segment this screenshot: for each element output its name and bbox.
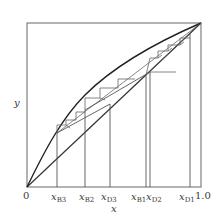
- diagram-canvas: [0, 0, 222, 221]
- operating-lines: [57, 23, 201, 133]
- tick-label-xB1: xB1: [131, 192, 146, 204]
- tick-label-xB3: xB3: [51, 192, 66, 204]
- tick-label-xD2: xD2: [146, 192, 162, 204]
- end-label: 1.0: [195, 191, 211, 201]
- origin-label: 0: [23, 191, 29, 201]
- x-axis-label: x: [111, 204, 117, 214]
- y-axis-label: y: [14, 98, 20, 108]
- operating-line-envelope: [57, 23, 201, 133]
- tick-label-xD1: xD1: [179, 192, 195, 204]
- operating-line-1: [146, 23, 201, 75]
- tick-label-xB2: xB2: [79, 192, 94, 204]
- composition-lines: [57, 34, 190, 187]
- tick-label-xD3: xD3: [101, 192, 117, 204]
- mccabe-thiele-diagram: y x 0 1.0 xB3 xB2 xD3 xB1 xD2 xD1: [0, 0, 222, 221]
